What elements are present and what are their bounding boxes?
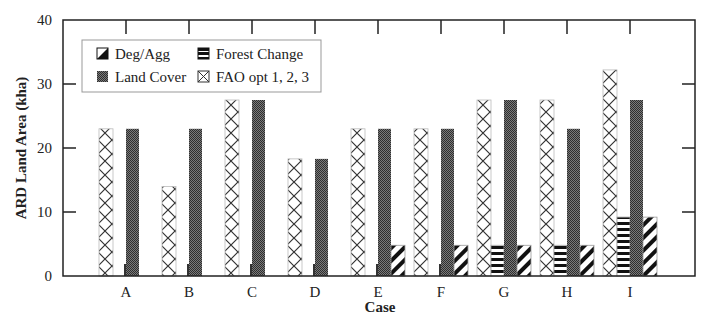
x-tick-label: I (628, 284, 633, 300)
forest-change-zero-marker (187, 264, 189, 276)
land-cover-bar (567, 129, 580, 276)
fao-bar (162, 186, 176, 276)
forest-change-zero-marker (124, 264, 126, 276)
x-tick-label: G (499, 284, 510, 300)
deg-agg-bar (580, 245, 594, 276)
fao-bar (603, 70, 617, 276)
fao-bar (99, 129, 113, 276)
fao-bar (351, 129, 365, 276)
y-tick-label: 20 (37, 140, 52, 156)
x-tick-labels: ABCDEFGHI (121, 284, 633, 300)
y-tick-label: 40 (37, 12, 52, 28)
y-tick-label: 0 (45, 268, 53, 284)
land-cover-bar (630, 100, 643, 276)
x-tick-label: C (247, 284, 257, 300)
x-axis-title: Case (365, 299, 396, 315)
forest-change-zero-marker (313, 264, 315, 276)
land-cover-bar (189, 129, 202, 276)
forest-change-bar (617, 217, 630, 276)
land-cover-bar (378, 129, 391, 276)
fao-bar (225, 100, 239, 276)
legend-label: Land Cover (115, 69, 186, 85)
bars (99, 70, 657, 276)
deg-agg-bar (391, 245, 405, 276)
x-tick-label: D (310, 284, 321, 300)
deg-agg-bar (517, 245, 531, 276)
y-tick-label: 10 (37, 204, 52, 220)
fao-bar (477, 100, 491, 276)
land-cover-bar (252, 100, 265, 276)
x-tick-label: E (373, 284, 382, 300)
land-cover-bar (315, 159, 328, 276)
legend-label: Forest Change (216, 46, 303, 62)
bar-chart: ARD Land Area (kha) 010203040 ABCDEFGHI … (0, 0, 712, 327)
forest-change-bar (554, 245, 567, 276)
horizontal-stripe-swatch-icon (198, 48, 209, 59)
legend-label: Deg/Agg (115, 46, 170, 62)
y-tick-label: 30 (37, 76, 52, 92)
forest-change-zero-marker (439, 264, 441, 276)
forest-change-zero-marker (250, 264, 252, 276)
fao-bar (288, 159, 302, 276)
x-tick-label: F (437, 284, 445, 300)
legend: Deg/Agg Forest Change Land Cover FAO opt… (82, 40, 321, 92)
y-axis-title: ARD Land Area (kha) (13, 77, 30, 220)
fao-bar (414, 129, 428, 276)
land-cover-bar (441, 129, 454, 276)
crosshatch-swatch-icon (198, 71, 209, 82)
deg-agg-bar (454, 245, 468, 276)
land-cover-bar (504, 100, 517, 276)
forest-change-zero-marker (376, 264, 378, 276)
y-tick-labels: 010203040 (37, 12, 52, 284)
land-cover-bar (126, 129, 139, 276)
x-tick-label: H (562, 284, 573, 300)
dotted-swatch-icon (97, 71, 108, 82)
x-tick-label: A (121, 284, 132, 300)
deg-agg-bar (643, 217, 657, 276)
forest-change-bar (491, 245, 504, 276)
fao-bar (540, 100, 554, 276)
x-tick-label: B (184, 284, 194, 300)
legend-label: FAO opt 1, 2, 3 (216, 69, 309, 85)
